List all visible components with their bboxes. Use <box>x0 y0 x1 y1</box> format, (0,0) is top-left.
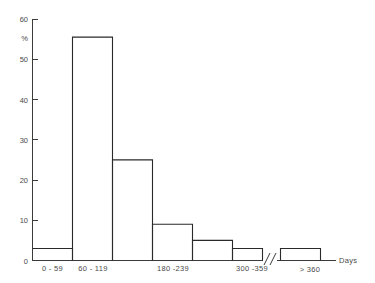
y-axis-unit-label: % <box>21 34 28 43</box>
chart-canvas: 0 10 20 30 40 50 60 % <box>0 0 375 283</box>
y-tick-label-10: 10 <box>20 216 28 225</box>
bar-300-359 <box>233 248 263 260</box>
y-tick-label-20: 20 <box>20 176 28 185</box>
y-tick-label-30: 30 <box>20 136 28 145</box>
x-tick-label-over-360: > 360 <box>300 265 320 274</box>
bar-over-360 <box>281 248 321 260</box>
x-tick-label-300-359: 300 -359 <box>236 264 268 273</box>
y-tick-label-60: 60 <box>20 15 28 24</box>
y-tick-label-0: 0 <box>24 257 28 266</box>
x-tick-label-180-239: 180 -239 <box>157 264 189 273</box>
histogram-chart: 0 10 20 30 40 50 60 % <box>0 0 375 283</box>
y-axis-ticks <box>33 19 39 261</box>
bar-120-179 <box>113 160 153 261</box>
bar-180-239 <box>153 224 193 260</box>
x-tick-label-60-119: 60 - 119 <box>78 264 107 273</box>
x-tick-label-0-59: 0 - 59 <box>42 264 63 273</box>
bar-0-59 <box>33 248 73 260</box>
y-tick-label-40: 40 <box>20 96 28 105</box>
bar-60-119 <box>73 37 113 260</box>
bar-240-299 <box>193 240 233 260</box>
x-axis-title: Days <box>339 256 357 265</box>
y-tick-label-50: 50 <box>20 55 28 64</box>
